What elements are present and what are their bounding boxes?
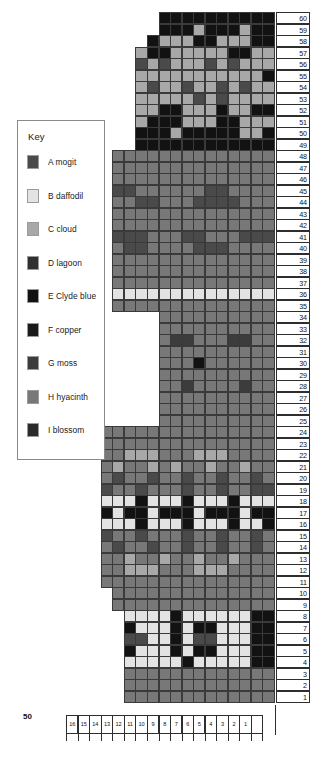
chart-cell [239, 403, 251, 415]
chart-cell [205, 288, 217, 300]
chart-cell [101, 472, 113, 484]
chart-cell [239, 254, 251, 266]
chart-cell [147, 254, 159, 266]
chart-cell [216, 564, 228, 576]
chart-cell [216, 254, 228, 266]
chart-cell [251, 518, 263, 530]
chart-cell [182, 656, 194, 668]
chart-cell [205, 196, 217, 208]
chart-cell [182, 323, 194, 335]
column-number-16: 16 [66, 715, 78, 734]
chart-cell [135, 679, 147, 691]
chart-cell [182, 219, 194, 231]
chart-cell [216, 173, 228, 185]
chart-cell [182, 127, 194, 139]
column-number-extra [251, 715, 263, 734]
chart-cell [205, 461, 217, 473]
chart-cell [205, 300, 217, 312]
chart-cell [216, 380, 228, 392]
chart-cell [216, 403, 228, 415]
chart-cell [170, 265, 182, 277]
chart-cell [147, 668, 159, 680]
chart-cell [216, 369, 228, 381]
chart-cell [135, 185, 147, 197]
chart-cell [147, 622, 159, 634]
chart-cell [262, 691, 274, 703]
row-number-48: 48 [276, 150, 310, 162]
chart-cell [251, 185, 263, 197]
chart-cell [159, 70, 171, 82]
chart-cell [251, 484, 263, 496]
chart-cell [262, 300, 274, 312]
key-swatch-g [27, 356, 39, 370]
chart-cell [262, 24, 274, 36]
chart-cell [228, 300, 240, 312]
chart-cell [135, 438, 147, 450]
chart-cell [112, 564, 124, 576]
chart-cell [159, 162, 171, 174]
chart-cell [124, 277, 136, 289]
chart-cell [228, 93, 240, 105]
chart-cell [239, 139, 251, 151]
chart-cell [101, 507, 113, 519]
key-label-b: B daffodil [48, 191, 83, 201]
column-number-13: 13 [101, 715, 113, 734]
column-tick [228, 734, 229, 741]
chart-cell [216, 656, 228, 668]
row-number-22: 22 [276, 449, 310, 461]
chart-cell [170, 403, 182, 415]
chart-cell [147, 196, 159, 208]
chart-cell [251, 219, 263, 231]
chart-cell [147, 150, 159, 162]
chart-cell [239, 369, 251, 381]
chart-cell [170, 104, 182, 116]
chart-cell [159, 150, 171, 162]
chart-cell [216, 415, 228, 427]
chart-cell [182, 426, 194, 438]
chart-cell [216, 633, 228, 645]
chart-cell [262, 438, 274, 450]
chart-cell [251, 346, 263, 358]
chart-cell [262, 507, 274, 519]
chart-cell [135, 610, 147, 622]
chart-cell [239, 323, 251, 335]
chart-cell [124, 656, 136, 668]
chart-cell [135, 461, 147, 473]
chart-cell [262, 369, 274, 381]
chart-cell [124, 254, 136, 266]
chart-cell [228, 530, 240, 542]
row-number-1: 1 [276, 691, 310, 703]
chart-cell [262, 116, 274, 128]
chart-cell [239, 507, 251, 519]
chart-cell [182, 576, 194, 588]
chart-cell [147, 127, 159, 139]
chart-cell [124, 564, 136, 576]
chart-cell [228, 633, 240, 645]
row-number-14: 14 [276, 541, 310, 553]
chart-cell [159, 369, 171, 381]
row-number-38: 38 [276, 265, 310, 277]
chart-cell [216, 357, 228, 369]
row-number-15: 15 [276, 530, 310, 542]
chart-cell [101, 495, 113, 507]
chart-cell [239, 162, 251, 174]
chart-cell [239, 185, 251, 197]
chart-cell [216, 81, 228, 93]
chart-cell [193, 116, 205, 128]
chart-cell [170, 334, 182, 346]
chart-cell [205, 553, 217, 565]
chart-cell [251, 70, 263, 82]
chart-cell [124, 196, 136, 208]
chart-cell [262, 622, 274, 634]
row-number-9: 9 [276, 599, 310, 611]
chart-cell [228, 47, 240, 59]
chart-cell [159, 219, 171, 231]
chart-cell [239, 35, 251, 47]
chart-cell [170, 415, 182, 427]
chart-cell [147, 518, 159, 530]
chart-cell [251, 139, 263, 151]
chart-cell [205, 231, 217, 243]
chart-cell [262, 242, 274, 254]
chart-cell [205, 334, 217, 346]
chart-cell [147, 300, 159, 312]
